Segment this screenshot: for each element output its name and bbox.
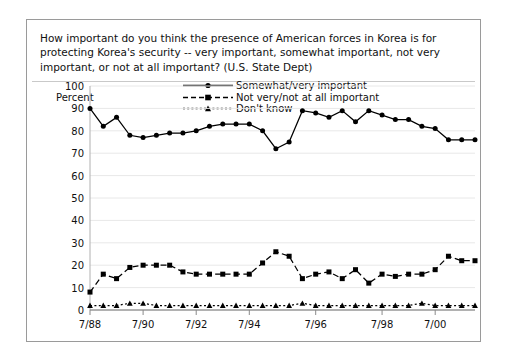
data-point (419, 124, 424, 129)
data-point (273, 249, 278, 254)
data-point (101, 124, 106, 129)
data-point (114, 276, 119, 281)
data-point (220, 303, 226, 308)
data-point (141, 135, 146, 140)
data-point (287, 254, 292, 259)
data-point (340, 276, 345, 281)
plot-area: 1009080706050403020100 7/887/907/927/947… (27, 20, 482, 343)
series-line (90, 108, 475, 148)
data-point (286, 303, 292, 308)
y-tick-label: 90 (50, 103, 84, 114)
data-point (207, 272, 212, 277)
x-tick-label: 7/94 (238, 319, 260, 330)
x-tick-label: 7/96 (304, 319, 326, 330)
y-tick-label: 100 (50, 81, 84, 92)
series-1 (88, 106, 478, 151)
data-point (180, 303, 186, 308)
data-point (273, 303, 279, 308)
data-point (313, 110, 318, 115)
data-point (326, 115, 331, 120)
data-point (154, 133, 159, 138)
data-point (313, 272, 318, 277)
data-point (167, 303, 173, 308)
data-point (313, 303, 319, 308)
y-tick-label: 70 (50, 148, 84, 159)
data-point (260, 260, 265, 265)
x-tick-label: 7/88 (79, 319, 101, 330)
data-point (101, 272, 106, 277)
data-point (180, 269, 185, 274)
data-point (459, 137, 464, 142)
data-point (340, 108, 345, 113)
data-point (326, 269, 331, 274)
y-tick-label: 50 (50, 193, 84, 204)
data-point (234, 122, 239, 127)
data-point (433, 126, 438, 131)
data-point (140, 300, 146, 305)
data-point (194, 272, 199, 277)
data-point (141, 263, 146, 268)
data-point (473, 258, 478, 263)
data-point (393, 274, 398, 279)
data-point (380, 113, 385, 118)
data-point (153, 303, 159, 308)
data-point (459, 258, 464, 263)
series-3 (87, 300, 478, 308)
data-point (180, 131, 185, 136)
data-point (247, 272, 252, 277)
data-point (114, 115, 119, 120)
data-point (246, 303, 252, 308)
x-tick-label: 7/98 (371, 319, 393, 330)
data-point (393, 117, 398, 122)
data-point (353, 267, 358, 272)
data-point (300, 108, 305, 113)
data-point (167, 131, 172, 136)
y-tick-label: 20 (50, 260, 84, 271)
data-point (473, 137, 478, 142)
data-point (154, 263, 159, 268)
y-tick-label: 0 (50, 305, 84, 316)
data-point (446, 254, 451, 259)
data-point (127, 265, 132, 270)
data-point (207, 124, 212, 129)
data-point (406, 117, 411, 122)
data-point (260, 128, 265, 133)
data-point (220, 122, 225, 127)
data-point (88, 290, 93, 295)
data-point (433, 267, 438, 272)
y-tick-label: 40 (50, 215, 84, 226)
data-point (406, 272, 411, 277)
data-point (366, 108, 371, 113)
chart-canvas (27, 20, 482, 343)
x-tick-label: 7/00 (424, 319, 446, 330)
series-line (90, 303, 475, 305)
chart-frame: How important do you think the presence … (26, 19, 481, 342)
data-point (366, 281, 371, 286)
data-point (353, 119, 358, 124)
data-point (167, 263, 172, 268)
data-point (300, 300, 306, 305)
data-point (260, 303, 266, 308)
y-tick-label: 10 (50, 282, 84, 293)
data-point (127, 133, 132, 138)
data-point (380, 272, 385, 277)
data-point (193, 303, 199, 308)
data-point (220, 272, 225, 277)
data-point (287, 140, 292, 145)
x-tick-label: 7/92 (185, 319, 207, 330)
data-point (127, 300, 133, 305)
data-point (300, 276, 305, 281)
data-point (233, 303, 239, 308)
data-point (88, 106, 93, 111)
data-point (446, 137, 451, 142)
y-tick-label: 80 (50, 125, 84, 136)
y-tick-label: 60 (50, 170, 84, 181)
data-point (114, 303, 120, 308)
data-point (419, 272, 424, 277)
data-point (234, 272, 239, 277)
data-point (87, 303, 93, 308)
data-point (100, 303, 106, 308)
series-line (90, 252, 475, 292)
data-point (207, 303, 213, 308)
x-tick-label: 7/90 (132, 319, 154, 330)
